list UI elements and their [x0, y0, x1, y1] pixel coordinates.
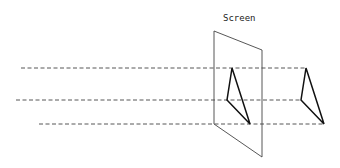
screen-label: Screen: [223, 13, 256, 23]
source-triangle: [301, 68, 324, 124]
projection-diagram: Screen: [0, 0, 340, 168]
screen-plane: [214, 31, 262, 157]
projected-triangle: [227, 68, 250, 124]
projection-lines: [16, 68, 324, 124]
